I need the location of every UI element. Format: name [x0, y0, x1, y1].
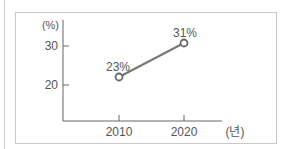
data-label-2010: 23% — [106, 60, 130, 74]
y-tick-label-30: 30 — [45, 39, 59, 53]
y-axis-unit-label: (%) — [42, 19, 59, 31]
y-tick-label-20: 20 — [45, 78, 59, 92]
data-label-2020: 31% — [173, 26, 197, 40]
x-axis-unit-label: (년) — [226, 125, 245, 139]
data-point-2010 — [116, 74, 123, 81]
line-chart: 30 20 (%) 2010 2020 (년) 23% 31% — [0, 0, 287, 149]
x-tick-label-2010: 2010 — [106, 125, 133, 139]
data-point-2020 — [181, 40, 188, 47]
x-tick-label-2020: 2020 — [171, 125, 198, 139]
